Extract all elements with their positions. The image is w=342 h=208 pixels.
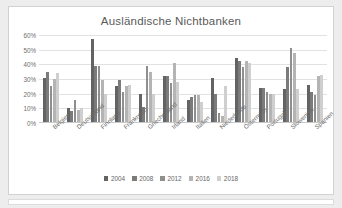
- bar: [149, 72, 152, 123]
- page-edge-strip: [8, 199, 334, 205]
- bar: [166, 76, 169, 123]
- legend-item[interactable]: 2012: [160, 175, 181, 182]
- legend-swatch-icon: [217, 176, 222, 181]
- legend-swatch-icon: [104, 176, 109, 181]
- bar: [122, 92, 125, 123]
- bar: [242, 67, 245, 123]
- bar: [50, 86, 53, 123]
- bar: [187, 100, 190, 123]
- chart-card: Ausländische Nichtbanken 60%50%40%30%20%…: [8, 6, 334, 195]
- y-axis-tick-label: 0%: [27, 120, 36, 127]
- bar: [190, 97, 193, 123]
- y-axis-tick-label: 50%: [23, 46, 36, 53]
- bar: [248, 63, 251, 123]
- x-axis-labels: BelgienDeutschlandFinnlandFrankreichGrie…: [39, 125, 325, 167]
- legend-swatch-icon: [132, 176, 137, 181]
- chart-legend: 20042008201220162018: [9, 175, 333, 182]
- bar: [283, 89, 286, 123]
- y-axis-tick-label: 30%: [23, 76, 36, 83]
- legend-item[interactable]: 2008: [132, 175, 153, 182]
- bar-group: [207, 35, 231, 123]
- bar: [211, 78, 214, 123]
- legend-item[interactable]: 2004: [104, 175, 125, 182]
- legend-label: 2018: [224, 175, 238, 182]
- bar: [293, 53, 296, 123]
- legend-swatch-icon: [160, 176, 165, 181]
- bar: [74, 100, 77, 123]
- bar: [43, 78, 46, 123]
- legend-item[interactable]: 2018: [217, 175, 238, 182]
- bar: [317, 76, 320, 123]
- bar: [118, 80, 121, 123]
- bar: [173, 63, 176, 123]
- bar: [194, 95, 197, 123]
- y-axis-tick-label: 40%: [23, 61, 36, 68]
- legend-label: 2012: [167, 175, 181, 182]
- bar: [46, 72, 49, 123]
- bar: [245, 61, 248, 123]
- bar: [101, 80, 104, 123]
- bar: [53, 79, 56, 123]
- bar: [56, 73, 59, 123]
- legend-label: 2008: [139, 175, 153, 182]
- legend-label: 2016: [196, 175, 210, 182]
- y-axis-tick-label: 60%: [23, 32, 36, 39]
- bar-group: [63, 35, 87, 123]
- bar-groups: [39, 35, 327, 123]
- y-axis-tick-label: 10%: [23, 105, 36, 112]
- legend-label: 2004: [111, 175, 125, 182]
- bar-group: [39, 35, 63, 123]
- legend-item[interactable]: 2016: [189, 175, 210, 182]
- bar: [290, 48, 293, 123]
- bar-group: [183, 35, 207, 123]
- plot-canvas: [39, 35, 327, 123]
- y-axis: 60%50%40%30%20%10%0%: [9, 35, 39, 123]
- bar: [98, 66, 101, 123]
- legend-swatch-icon: [189, 176, 194, 181]
- screenshot-page: Ausländische Nichtbanken 60%50%40%30%20%…: [0, 0, 342, 208]
- chart-title: Ausländische Nichtbanken: [9, 15, 333, 27]
- y-axis-tick-label: 20%: [23, 90, 36, 97]
- bar: [125, 86, 128, 123]
- bar: [214, 94, 217, 123]
- bar: [146, 66, 149, 123]
